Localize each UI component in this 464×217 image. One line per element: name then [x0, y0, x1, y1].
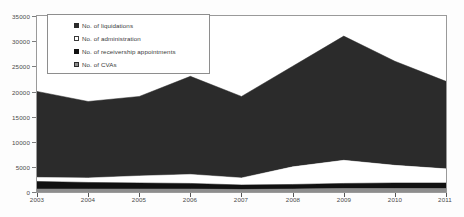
x-axis: 2003 2004 2005 2006 2007 2008 2009 2010 … [0, 196, 464, 214]
x-tick-label-2003: 2003 [30, 196, 44, 203]
y-tick-label-20000: 20000 [12, 89, 30, 96]
y-tick-label-30000: 30000 [12, 38, 30, 45]
legend-swatch-icon-liquidations [74, 23, 79, 28]
legend-item-cvas: No. of CVAs [48, 58, 209, 71]
legend-label-receivership: No. of receivership appointments [82, 48, 176, 55]
x-tick-label-2008: 2008 [286, 196, 300, 203]
legend-label-liquidations: No. of liquidations [82, 22, 133, 29]
y-tick-label-25000: 25000 [12, 63, 30, 70]
legend-label-administration: No. of administration [82, 35, 141, 42]
x-tick-label-2009: 2009 [337, 196, 351, 203]
x-tick-label-2006: 2006 [183, 196, 197, 203]
stacked-area-chart: 35000 30000 25000 20000 15000 10000 5000… [0, 0, 464, 217]
legend-label-cvas: No. of CVAs [82, 61, 117, 68]
y-tick-label-10000: 10000 [12, 139, 30, 146]
legend-item-administration: No. of administration [48, 32, 209, 45]
x-tick-label-2011: 2011 [438, 196, 452, 203]
legend-swatch-icon-administration [74, 36, 79, 41]
legend-item-receivership: No. of receivership appointments [48, 45, 209, 58]
y-tick-label-5000: 5000 [16, 164, 30, 171]
x-tick-label-2005: 2005 [132, 196, 146, 203]
x-tick-label-2004: 2004 [81, 196, 95, 203]
legend-item-liquidations: No. of liquidations [48, 19, 209, 32]
chart-legend: No. of liquidations No. of administratio… [47, 14, 210, 74]
y-tick-label-0: 0 [26, 189, 30, 196]
y-axis: 35000 30000 25000 20000 15000 10000 5000… [0, 0, 34, 217]
x-tick-label-2007: 2007 [234, 196, 248, 203]
y-tick-label-35000: 35000 [12, 13, 30, 20]
y-tick-label-15000: 15000 [12, 114, 30, 121]
legend-swatch-icon-cvas [74, 62, 79, 67]
legend-swatch-icon-receivership [74, 49, 79, 54]
x-tick-label-2010: 2010 [388, 196, 402, 203]
